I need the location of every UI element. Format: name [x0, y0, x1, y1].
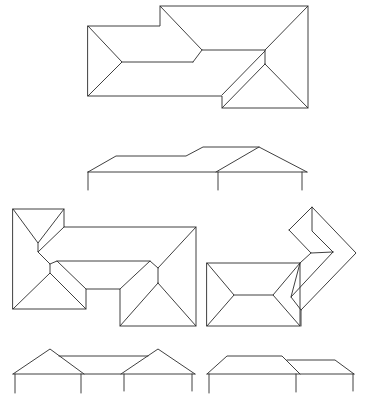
roof-line — [273, 263, 300, 326]
roof-line — [265, 64, 308, 108]
elevation-3 — [207, 356, 354, 393]
roof-plan-2 — [13, 209, 196, 326]
roof-line — [222, 64, 265, 108]
roof-line — [289, 230, 333, 253]
roof-line — [265, 6, 308, 64]
roof-line — [300, 253, 311, 263]
roof-line — [38, 252, 50, 273]
roof-line — [222, 51, 265, 95]
roof-line — [207, 356, 300, 374]
roof-line — [207, 263, 300, 326]
roof-line — [291, 252, 333, 310]
roof-line — [120, 261, 150, 289]
roof-line — [38, 227, 64, 252]
roof-line — [287, 360, 354, 374]
roof-line — [88, 6, 308, 108]
roof-line — [216, 147, 259, 172]
roof-line — [312, 207, 333, 252]
roof-line — [121, 349, 195, 374]
elevation-2 — [13, 349, 195, 393]
roof-line — [13, 349, 84, 374]
roof-line — [13, 209, 64, 243]
roof-line — [160, 6, 265, 50]
roof-line — [13, 209, 196, 326]
roof-plan-1 — [88, 6, 308, 108]
roof-diagram — [0, 0, 366, 408]
roof-line — [50, 261, 86, 289]
roof-line — [158, 283, 196, 326]
roof-line — [207, 263, 234, 326]
roof-plan-3 — [207, 207, 356, 326]
roof-line — [88, 147, 307, 172]
roof-line — [193, 50, 202, 62]
roof-line — [57, 261, 158, 268]
roof-line — [120, 283, 158, 326]
roof-line — [88, 26, 122, 96]
elevation-1 — [88, 147, 307, 190]
roof-line — [158, 227, 196, 283]
